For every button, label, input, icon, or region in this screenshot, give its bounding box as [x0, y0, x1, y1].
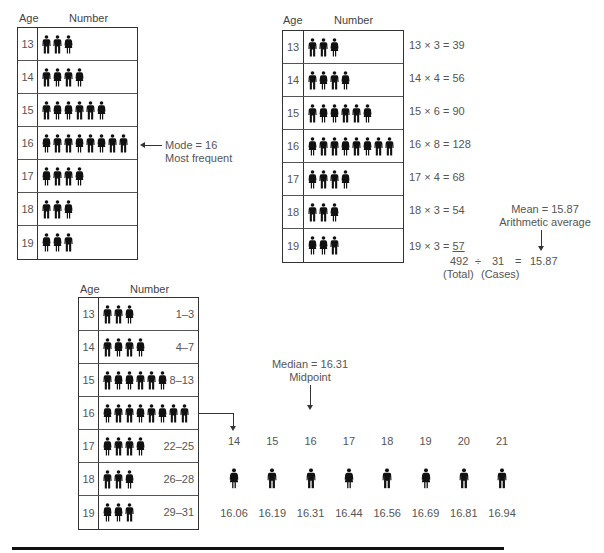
age-cell: 13: [283, 31, 304, 63]
figure-group: [41, 68, 85, 87]
table-row-age-18: 18: [283, 196, 403, 229]
case-range: 29–31: [163, 506, 194, 518]
man-figure-icon: [381, 468, 393, 489]
woman-figure-icon: [41, 233, 52, 252]
figure-group: [307, 137, 395, 156]
man-figure-icon: [329, 236, 340, 255]
man-figure-icon: [307, 104, 318, 123]
man-figure-icon: [52, 35, 63, 54]
mode-annotation: Mode = 16 Most frequent: [165, 139, 232, 165]
expansion-figure: [420, 468, 432, 489]
woman-figure-icon: [329, 203, 340, 222]
man-figure-icon: [340, 104, 351, 123]
woman-figure-icon: [124, 305, 135, 324]
figure-group: [41, 233, 74, 252]
man-figure-icon: [113, 470, 124, 489]
case-range: 8–13: [170, 374, 194, 386]
age-cell: 13: [79, 298, 99, 330]
table-row-age-17: 1722–25: [79, 430, 198, 463]
man-figure-icon: [384, 137, 395, 156]
table-row-age-19: 1929–31: [79, 496, 198, 529]
age-cell: 17: [79, 430, 99, 462]
expansion-figure: [381, 468, 393, 489]
man-figure-icon: [118, 134, 129, 153]
figure-group: [307, 71, 351, 90]
interpolated-value: 16.44: [331, 507, 367, 519]
woman-figure-icon: [63, 35, 74, 54]
table-row-age-14: 144–7: [79, 331, 198, 364]
woman-figure-icon: [318, 71, 329, 90]
equals-sign: =: [515, 255, 521, 267]
man-figure-icon: [135, 371, 146, 390]
median-table: 131–3144–7158–13161722–251826–281929–31: [78, 297, 199, 530]
mean-result: 15.87: [530, 255, 558, 267]
man-figure-icon: [179, 404, 190, 423]
figure-group: [41, 101, 107, 120]
mode-arrow-icon: [140, 142, 145, 148]
man-figure-icon: [329, 170, 340, 189]
calc-row-15: 15 × 6 = 90: [409, 105, 465, 117]
age-cell: 17: [283, 163, 304, 195]
number-header: Number: [130, 283, 169, 295]
woman-figure-icon: [74, 68, 85, 87]
woman-figure-icon: [318, 236, 329, 255]
table-row-age-18: 1826–28: [79, 463, 198, 496]
case-number: 21: [487, 435, 517, 447]
figure-group: [102, 338, 146, 357]
total-label: (Total): [443, 268, 474, 280]
table-row-age-17: 17: [283, 163, 403, 196]
median-arrow-line: [310, 385, 311, 406]
mean-arrow-icon: [538, 246, 544, 251]
woman-figure-icon: [52, 101, 63, 120]
calc-row-14: 14 × 4 = 56: [409, 72, 465, 84]
table-row-age-13: 13: [18, 28, 137, 61]
median-annotation: Median = 16.31 Midpoint: [265, 358, 355, 384]
figure-group: [41, 167, 85, 186]
man-figure-icon: [351, 137, 362, 156]
table-row-age-14: 14: [283, 64, 403, 97]
man-figure-icon: [329, 137, 340, 156]
woman-figure-icon: [52, 68, 63, 87]
case-number: 19: [411, 435, 441, 447]
figure-group: [41, 35, 74, 54]
man-figure-icon: [318, 170, 329, 189]
man-figure-icon: [351, 104, 362, 123]
interpolated-value: 16.56: [369, 507, 405, 519]
interpolated-value: 16.94: [484, 507, 520, 519]
man-figure-icon: [124, 503, 135, 522]
cases-value: 31: [492, 255, 504, 267]
table-row-age-19: 19: [18, 226, 137, 259]
man-figure-icon: [373, 137, 384, 156]
median-connector-arrow-icon: [230, 426, 236, 431]
mean-arrow-line: [541, 230, 542, 247]
woman-figure-icon: [228, 468, 240, 489]
woman-figure-icon: [124, 470, 135, 489]
age-header: Age: [19, 12, 39, 24]
figure-group: [102, 503, 135, 522]
number-header: Number: [334, 14, 373, 26]
woman-figure-icon: [157, 371, 168, 390]
woman-figure-icon: [340, 170, 351, 189]
mean-table: 13141516171819: [282, 30, 404, 263]
age-cell: 18: [283, 196, 304, 228]
man-figure-icon: [113, 437, 124, 456]
interpolated-value: 16.81: [446, 507, 482, 519]
interpolated-value: 16.69: [408, 507, 444, 519]
woman-figure-icon: [52, 233, 63, 252]
man-figure-icon: [266, 468, 278, 489]
mean-label: Mean = 15.87: [490, 203, 600, 216]
calc-row-17: 17 × 4 = 68: [409, 171, 465, 183]
mode-label: Mode = 16: [165, 139, 232, 152]
calc-row-13: 13 × 3 = 39: [409, 39, 465, 51]
man-figure-icon: [496, 468, 508, 489]
woman-figure-icon: [157, 404, 168, 423]
table-row-age-14: 14: [18, 61, 137, 94]
woman-figure-icon: [340, 137, 351, 156]
man-figure-icon: [146, 371, 157, 390]
figure-group: [307, 170, 351, 189]
man-figure-icon: [85, 134, 96, 153]
woman-figure-icon: [135, 338, 146, 357]
woman-figure-icon: [96, 134, 107, 153]
woman-figure-icon: [41, 134, 52, 153]
interpolated-value: 16.31: [293, 507, 329, 519]
